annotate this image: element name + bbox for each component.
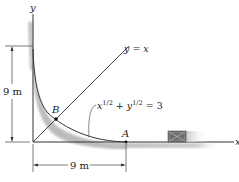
vertical-dimension: 9 m [3, 46, 33, 142]
point-b-label: B [51, 104, 59, 115]
equation-leader-line [89, 105, 96, 137]
horizontal-dimension-label: 9 m [70, 160, 90, 171]
vertical-dimension-label: 9 m [3, 86, 23, 97]
crate [168, 131, 208, 142]
point-b-marker [54, 117, 58, 121]
point-a-label: A [121, 128, 129, 139]
point-a-marker [125, 141, 128, 144]
curve-equation-label: x1/2 + y1/2 = 3 [97, 99, 163, 111]
x-axis-label: x [235, 136, 239, 147]
y-axis-label: y [29, 2, 36, 13]
line-y-equals-x [33, 46, 129, 142]
diagram-canvas: y x y = x B A x1/2 + y1/2 = 3 [0, 0, 239, 182]
line-y-equals-x-label: y = x [123, 43, 149, 54]
